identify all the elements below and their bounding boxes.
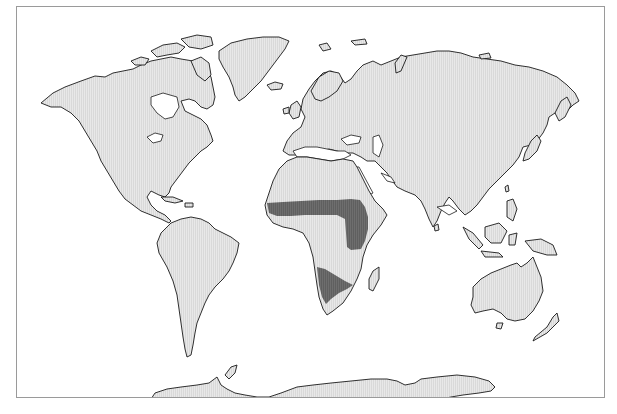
- sulawesi: [509, 233, 517, 245]
- map-frame: world distribution map: [16, 6, 605, 398]
- philippines: [507, 199, 517, 221]
- north-america: [41, 57, 215, 223]
- arctic-islands: [151, 43, 185, 57]
- arctic-island: [131, 57, 149, 65]
- world-map: [17, 7, 605, 398]
- south-america: [157, 217, 239, 357]
- borneo: [485, 223, 507, 243]
- new-zealand: [533, 313, 559, 341]
- greenland: [219, 37, 289, 101]
- british-isles: [289, 101, 301, 119]
- new-siberian-islands: [479, 53, 491, 59]
- new-guinea: [525, 239, 557, 255]
- antarctic-peninsula: [225, 365, 237, 379]
- antarctica: [151, 375, 495, 398]
- tasmania: [496, 323, 503, 329]
- taiwan: [505, 185, 509, 192]
- ireland: [283, 107, 289, 114]
- svalbard: [319, 43, 331, 51]
- java: [481, 251, 503, 257]
- hispaniola: [185, 203, 193, 207]
- iceland: [267, 82, 283, 90]
- australia: [471, 257, 543, 321]
- madagascar: [369, 267, 379, 291]
- arctic-island: [181, 35, 213, 49]
- cuba: [161, 197, 183, 203]
- sumatra: [463, 227, 483, 249]
- franz-josef-land: [351, 39, 367, 45]
